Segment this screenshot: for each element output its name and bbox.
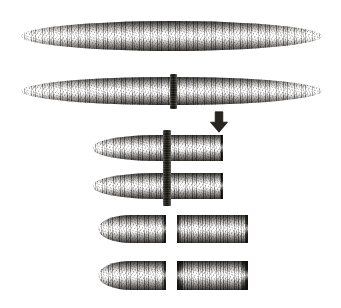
aligned-fragment-lower xyxy=(92,173,223,199)
anterior-fragment-upper xyxy=(98,215,166,243)
posterior-fragment-upper xyxy=(177,215,248,243)
cut-face-right-icon xyxy=(242,261,248,290)
intact-worm xyxy=(21,21,322,51)
anterior-fragment-lower xyxy=(98,261,166,290)
worm-bisection-figure xyxy=(0,0,341,308)
aligned-fragment-upper xyxy=(92,135,223,161)
cut-plane-bar-stage2 xyxy=(170,74,177,109)
cut-face-left-icon xyxy=(177,261,183,290)
cut-plane-bar-stage3 xyxy=(163,130,171,206)
down-arrow-icon xyxy=(209,111,229,133)
posterior-fragment-lower xyxy=(177,261,248,290)
